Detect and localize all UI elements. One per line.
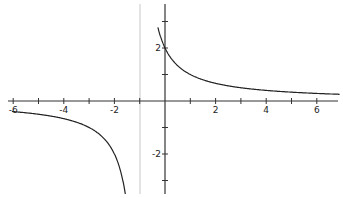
x-tick-label: 6	[314, 105, 320, 115]
x-tick-label: -4	[59, 105, 68, 115]
x-tick-label: 2	[213, 105, 219, 115]
curve-left-branch	[12, 112, 125, 195]
x-tick-label: -6	[9, 105, 18, 115]
y-tick-label: -2	[152, 149, 161, 159]
x-tick-label: 4	[263, 105, 269, 115]
y-tick-label: 2	[155, 43, 161, 53]
axes	[8, 4, 338, 194]
x-tick-label: -2	[110, 105, 119, 115]
function-graph: -6-4-22462-2	[0, 0, 343, 198]
curve-right-branch	[158, 27, 340, 94]
